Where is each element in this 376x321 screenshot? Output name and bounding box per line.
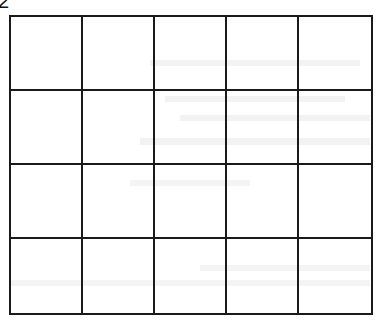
grid-cell xyxy=(155,17,227,91)
grid-cell xyxy=(227,17,299,91)
grid-cell xyxy=(299,239,371,313)
page-label: 2 xyxy=(0,0,9,11)
grid-cell xyxy=(83,91,155,165)
grid-cell xyxy=(11,17,83,91)
grid-cell xyxy=(11,91,83,165)
grid-cell xyxy=(155,91,227,165)
blank-grid-table xyxy=(9,15,373,315)
grid-cell xyxy=(155,239,227,313)
grid-cell xyxy=(227,91,299,165)
grid-cell xyxy=(227,239,299,313)
grid-cell xyxy=(11,165,83,239)
grid-cell xyxy=(299,165,371,239)
grid-cell xyxy=(83,17,155,91)
grid-cell xyxy=(83,239,155,313)
grid-cell xyxy=(83,165,155,239)
grid-cell xyxy=(155,165,227,239)
grid-cell xyxy=(227,165,299,239)
grid-cell xyxy=(299,17,371,91)
grid-cell xyxy=(299,91,371,165)
grid-cell xyxy=(11,239,83,313)
